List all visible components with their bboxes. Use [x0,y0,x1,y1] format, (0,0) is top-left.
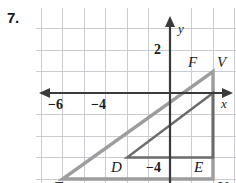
point-label-E: E [194,160,203,175]
figure-root: 7. [0,0,236,183]
x-axis-label: x [221,97,227,110]
tick-label-x-neg6: −6 [48,97,63,113]
point-label-T: T [54,180,62,183]
coordinate-plane: y x −6 −4 2 −4 T U V D E F [36,8,236,183]
point-label-U: U [217,180,228,183]
graph-svg [36,8,236,183]
tick-label-x-neg4: −4 [91,97,106,113]
y-axis-arrow-up [165,16,175,27]
point-label-F: F [188,55,197,70]
tick-label-y-neg4: −4 [146,160,161,176]
y-axis-label: y [178,22,184,35]
problem-number: 7. [7,9,19,26]
tick-label-y-2: 2 [154,42,161,58]
point-label-V: V [217,55,226,70]
point-label-D: D [111,160,122,175]
triangle-TUV [63,72,214,180]
